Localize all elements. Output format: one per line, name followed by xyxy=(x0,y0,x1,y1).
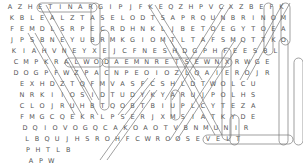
grid-cell[interactable]: O xyxy=(148,35,158,46)
grid-cell[interactable]: O xyxy=(218,79,228,90)
grid-cell[interactable]: Y xyxy=(79,46,89,57)
grid-cell[interactable]: N xyxy=(47,35,57,46)
grid-cell[interactable]: N xyxy=(138,24,148,35)
grid-cell[interactable]: B xyxy=(63,145,73,156)
grid-cell[interactable]: Q xyxy=(238,35,248,46)
grid-cell[interactable]: K xyxy=(121,123,131,134)
grid-cell[interactable]: K xyxy=(218,112,228,123)
grid-cell[interactable]: K xyxy=(148,24,158,35)
grid-cell[interactable]: L xyxy=(178,35,188,46)
grid-cell[interactable]: R xyxy=(232,68,242,79)
grid-cell[interactable]: O xyxy=(131,123,141,134)
grid-cell[interactable]: L xyxy=(270,46,280,57)
grid-cell[interactable]: Q xyxy=(77,79,87,90)
grid-cell[interactable]: L xyxy=(27,101,37,112)
grid-cell[interactable]: E xyxy=(122,57,132,68)
grid-cell[interactable]: D xyxy=(128,90,138,101)
grid-cell[interactable]: H xyxy=(168,79,178,90)
grid-cell[interactable]: V xyxy=(206,2,216,13)
grid-cell[interactable]: B xyxy=(228,13,238,24)
grid-cell[interactable]: T xyxy=(233,134,243,145)
grid-cell[interactable]: J xyxy=(110,46,120,57)
grid-cell[interactable]: E xyxy=(213,134,223,145)
grid-cell[interactable]: Z xyxy=(57,79,67,90)
grid-cell[interactable]: S xyxy=(82,134,92,145)
grid-cell[interactable]: T xyxy=(168,35,178,46)
grid-cell[interactable]: R xyxy=(238,13,248,24)
grid-cell[interactable]: H xyxy=(37,79,47,90)
grid-cell[interactable]: L xyxy=(188,101,198,112)
grid-cell[interactable]: F xyxy=(7,24,17,35)
grid-cell[interactable]: Z xyxy=(15,2,25,13)
grid-cell[interactable]: S xyxy=(183,134,193,145)
grid-cell[interactable]: O xyxy=(128,13,138,24)
grid-cell[interactable]: C xyxy=(97,24,107,35)
grid-cell[interactable]: I xyxy=(55,2,65,13)
grid-cell[interactable]: A xyxy=(248,101,258,112)
grid-cell[interactable]: K xyxy=(118,35,128,46)
grid-cell[interactable]: A xyxy=(278,24,288,35)
grid-cell[interactable]: R xyxy=(108,24,118,35)
grid-cell[interactable]: P xyxy=(31,57,41,68)
grid-cell[interactable]: C xyxy=(133,134,143,145)
grid-cell[interactable]: B xyxy=(17,13,27,24)
grid-cell[interactable]: A xyxy=(47,13,57,24)
grid-cell[interactable]: O xyxy=(37,101,47,112)
grid-cell[interactable]: Z xyxy=(71,68,81,79)
grid-cell[interactable]: W xyxy=(46,156,56,167)
grid-cell[interactable]: X xyxy=(226,2,236,13)
grid-cell[interactable]: E xyxy=(57,35,67,46)
grid-cell[interactable]: B xyxy=(87,35,97,46)
grid-cell[interactable]: K xyxy=(37,90,47,101)
grid-cell[interactable]: C xyxy=(47,112,57,123)
grid-cell[interactable]: P xyxy=(77,24,87,35)
grid-cell[interactable]: E xyxy=(132,68,142,79)
grid-cell[interactable]: H xyxy=(210,46,220,57)
grid-cell[interactable]: R xyxy=(85,2,95,13)
grid-cell[interactable]: P xyxy=(122,68,132,79)
grid-cell[interactable]: R xyxy=(178,90,188,101)
grid-cell[interactable]: Y xyxy=(138,90,148,101)
grid-cell[interactable]: U xyxy=(168,101,178,112)
grid-cell[interactable]: Y xyxy=(67,35,77,46)
grid-cell[interactable]: O xyxy=(218,90,228,101)
grid-cell[interactable]: L xyxy=(228,79,238,90)
grid-cell[interactable]: K xyxy=(9,46,19,57)
grid-cell[interactable]: R xyxy=(232,57,242,68)
grid-cell[interactable]: E xyxy=(262,57,272,68)
grid-cell[interactable]: Q xyxy=(42,134,52,145)
grid-cell[interactable]: S xyxy=(178,112,188,123)
grid-cell[interactable]: K xyxy=(7,13,17,24)
grid-cell[interactable]: J xyxy=(148,112,158,123)
grid-cell[interactable]: N xyxy=(212,57,222,68)
grid-cell[interactable]: T xyxy=(43,145,53,156)
grid-cell[interactable]: E xyxy=(228,101,238,112)
grid-cell[interactable]: E xyxy=(128,112,138,123)
grid-cell[interactable]: O xyxy=(268,13,278,24)
grid-cell[interactable]: P xyxy=(178,13,188,24)
grid-cell[interactable]: J xyxy=(126,2,136,13)
grid-cell[interactable]: V xyxy=(60,123,70,134)
grid-cell[interactable]: A xyxy=(168,90,178,101)
grid-cell[interactable]: E xyxy=(240,46,250,57)
grid-cell[interactable]: N xyxy=(140,46,150,57)
grid-cell[interactable]: L xyxy=(223,134,233,145)
grid-cell[interactable]: P xyxy=(81,68,91,79)
grid-cell[interactable]: K xyxy=(268,35,278,46)
grid-cell[interactable]: H xyxy=(72,134,82,145)
grid-cell[interactable]: G xyxy=(190,46,200,57)
grid-cell[interactable]: U xyxy=(52,134,62,145)
grid-cell[interactable]: R xyxy=(188,13,198,24)
grid-cell[interactable]: O xyxy=(163,134,173,145)
grid-cell[interactable]: S xyxy=(248,90,258,101)
grid-cell[interactable]: L xyxy=(228,90,238,101)
grid-cell[interactable]: S xyxy=(158,13,168,24)
grid-cell[interactable]: V xyxy=(49,46,59,57)
grid-cell[interactable]: T xyxy=(218,101,228,112)
grid-cell[interactable]: M xyxy=(278,13,288,24)
grid-cell[interactable]: M xyxy=(21,57,31,68)
grid-cell[interactable]: G xyxy=(80,123,90,134)
grid-cell[interactable]: Y xyxy=(208,101,218,112)
grid-cell[interactable]: U xyxy=(67,101,77,112)
grid-cell[interactable]: B xyxy=(37,35,47,46)
